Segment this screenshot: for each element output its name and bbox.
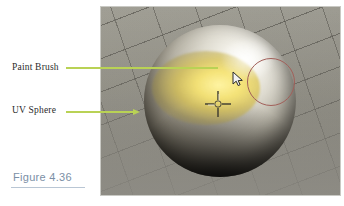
figure-caption-rule xyxy=(11,187,85,188)
annotation-leader-paint-brush xyxy=(66,67,218,69)
figure-caption: Figure 4.36 xyxy=(13,171,72,183)
annotation-label-uv-sphere: UV Sphere xyxy=(12,105,56,115)
annotation-label-paint-brush: Paint Brush xyxy=(12,62,59,72)
mouse-pointer-icon xyxy=(232,71,244,87)
3d-viewport[interactable] xyxy=(101,7,340,195)
annotation-leader-uv-sphere xyxy=(66,111,134,113)
annotation-arrowhead-uv-sphere xyxy=(133,109,140,115)
paint-brush-circle-icon[interactable] xyxy=(247,58,295,106)
figure-page: Paint Brush UV Sphere Figure 4.36 xyxy=(0,0,344,206)
3d-cursor-icon[interactable] xyxy=(205,91,231,117)
